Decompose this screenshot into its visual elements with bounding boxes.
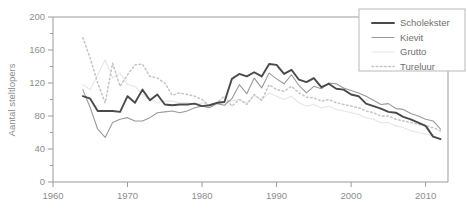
legend-label-tureluur: Tureluur: [400, 61, 435, 72]
chart-figure: 04080120160200 196019701980199020002010 …: [0, 0, 467, 222]
x-tick-label: 2000: [341, 190, 362, 201]
y-tick-label: 160: [29, 44, 45, 55]
x-tick-label: 1980: [191, 190, 212, 201]
legend: ScholeksterKievitGruttoTureluur: [359, 9, 465, 72]
y-tick-label: 0: [40, 176, 45, 187]
y-tick-label: 40: [34, 143, 45, 154]
x-tick-label: 1990: [266, 190, 287, 201]
legend-label-kievit: Kievit: [400, 32, 424, 43]
x-axis-tick-labels: 196019701980199020002010: [42, 190, 436, 201]
y-axis-ticks: [48, 17, 53, 182]
x-axis-ticks: [53, 182, 426, 187]
legend-label-scholekster: Scholekster: [400, 17, 450, 28]
series-line-scholekster: [83, 64, 441, 139]
x-tick-label: 2010: [415, 190, 436, 201]
y-tick-label: 80: [34, 110, 45, 121]
x-tick-label: 1960: [42, 190, 63, 201]
line-chart: 04080120160200 196019701980199020002010 …: [0, 0, 467, 222]
legend-label-grutto: Grutto: [400, 46, 426, 57]
y-tick-label: 120: [29, 77, 45, 88]
series-line-kievit: [83, 73, 441, 137]
y-tick-label: 200: [29, 11, 45, 22]
x-tick-label: 1970: [117, 190, 138, 201]
y-axis-title: Aantal steltlopers: [6, 63, 17, 136]
y-axis-tick-labels: 04080120160200: [29, 11, 45, 187]
